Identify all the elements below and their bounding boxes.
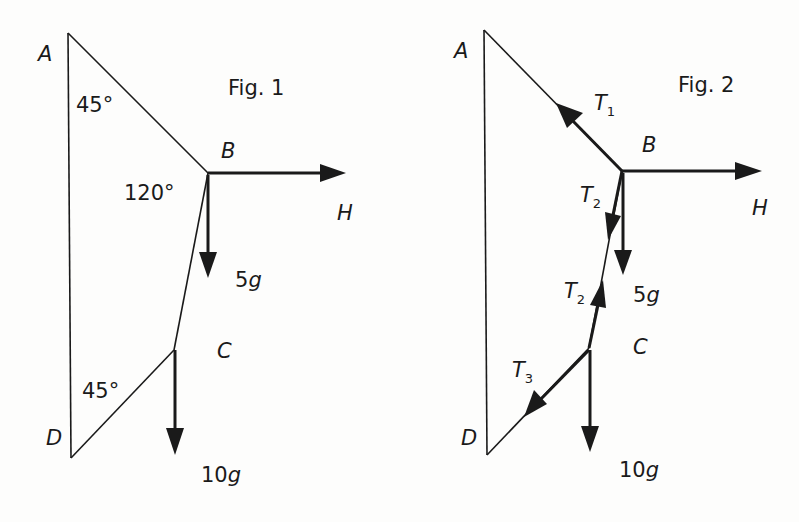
point-c-label: C <box>633 335 648 359</box>
point-d-label: D <box>461 426 477 450</box>
figure-2-title: Fig. 2 <box>678 73 734 97</box>
tension-t1-label: T1 <box>594 91 615 119</box>
force-10g-label: 10g <box>201 463 241 487</box>
force-10g-arrow <box>581 350 599 452</box>
point-a-label: A <box>452 39 468 63</box>
tension-t2-bottom-label: T2 <box>564 279 585 307</box>
diagram-canvas: A 45° Fig. 1 B 120° H 5g C 45° D 10g <box>0 0 799 522</box>
figure-1: A 45° Fig. 1 B 120° H 5g C 45° D 10g <box>36 33 353 487</box>
force-h-arrow <box>622 162 762 180</box>
tension-t2-bottom-arrow <box>589 280 606 348</box>
point-a-label: A <box>36 42 52 66</box>
tension-t2-top-label: T2 <box>580 183 601 211</box>
figure-1-title: Fig. 1 <box>228 76 284 100</box>
point-b-label: B <box>221 139 235 163</box>
force-5g-arrow <box>199 175 217 278</box>
point-c-label: C <box>217 339 232 363</box>
force-h-arrow <box>208 164 346 182</box>
force-h-label: H <box>752 196 768 220</box>
wall-line-ad <box>484 30 487 455</box>
force-5g-label: 5g <box>235 268 262 292</box>
tension-t3-arrow <box>524 350 589 417</box>
wall-line-ad <box>68 33 71 458</box>
force-h-label: H <box>337 201 353 225</box>
force-10g-label: 10g <box>619 458 659 482</box>
string-cd <box>71 350 174 458</box>
angle-b-label: 120° <box>124 181 175 205</box>
angle-a-label: 45° <box>76 93 113 117</box>
angle-d-label: 45° <box>82 379 119 403</box>
figure-2: A Fig. 2 T1 B T2 H T2 5g C T3 D 10g <box>452 30 768 482</box>
point-b-label: B <box>642 133 656 157</box>
point-d-label: D <box>46 426 62 450</box>
force-5g-arrow <box>614 173 632 275</box>
tension-t2-top-arrow <box>605 171 622 240</box>
force-10g-arrow <box>166 350 184 455</box>
tension-t3-label: T3 <box>512 358 533 386</box>
force-5g-label: 5g <box>633 283 660 307</box>
